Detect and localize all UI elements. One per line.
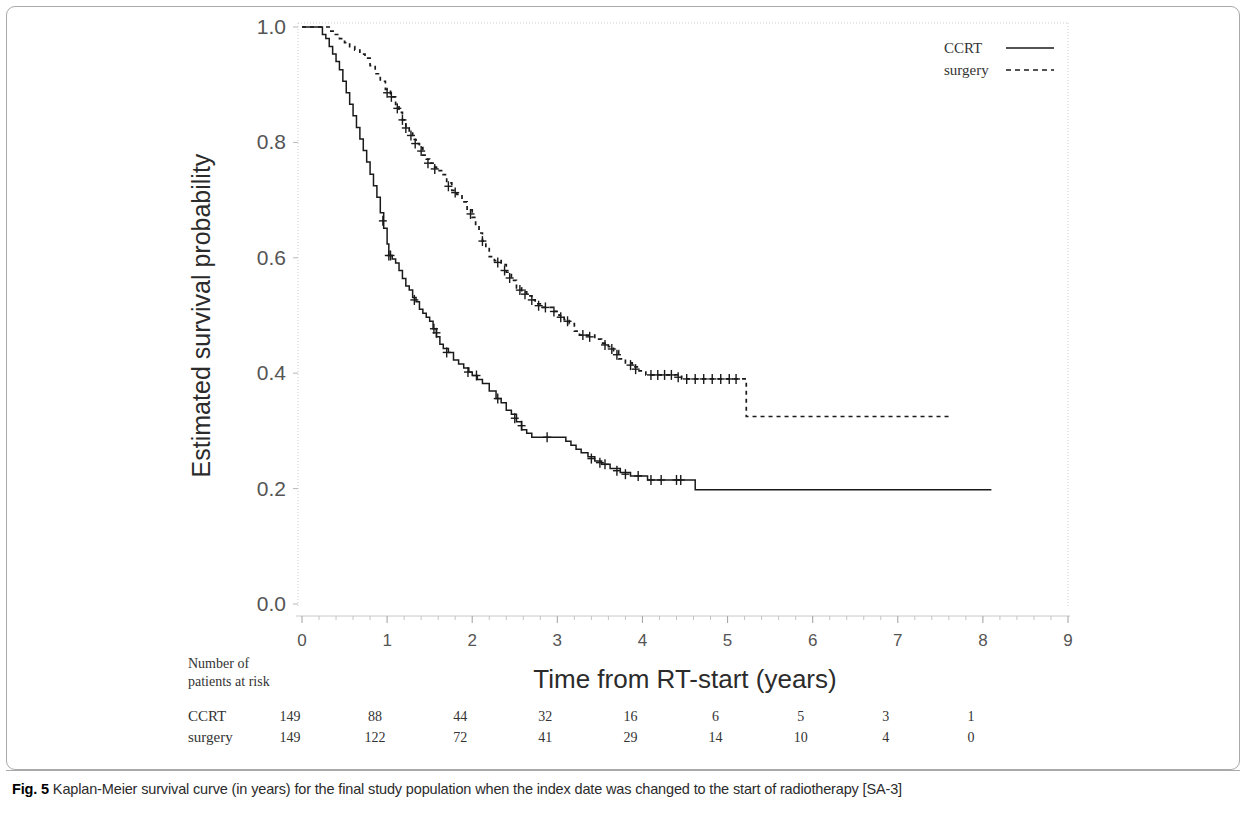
- risk-cell: 29: [623, 730, 637, 745]
- risk-cell: 16: [623, 709, 637, 724]
- y-tick-label: 0.2: [257, 477, 286, 500]
- risk-cell: 88: [368, 709, 382, 724]
- risk-cell: 10: [794, 730, 808, 745]
- x-tick-label: 0: [297, 631, 306, 650]
- figure-root: 0.00.20.40.60.81.0Estimated survival pro…: [0, 0, 1248, 813]
- risk-cell: 6: [712, 709, 719, 724]
- y-tick-label: 1.0: [257, 15, 286, 38]
- risk-cell: 41: [538, 730, 552, 745]
- x-tick-label: 5: [723, 631, 732, 650]
- caption-divider: [6, 770, 1240, 771]
- risk-cell: 149: [280, 709, 301, 724]
- risk-cell: 149: [280, 730, 301, 745]
- figure-caption: Fig. 5 Kaplan-Meier survival curve (in y…: [12, 781, 1242, 797]
- x-axis-title: Time from RT-start (years): [533, 664, 836, 694]
- risk-cell: 1: [967, 709, 974, 724]
- x-tick-label: 1: [382, 631, 391, 650]
- y-axis-title: Estimated survival probability: [187, 153, 215, 477]
- risk-table-heading-line2: patients at risk: [188, 674, 270, 689]
- risk-cell: 3: [882, 709, 889, 724]
- risk-cell: 14: [709, 730, 723, 745]
- risk-row-label-surgery: surgery: [188, 729, 233, 745]
- y-tick-label: 0.6: [257, 246, 286, 269]
- y-tick-label: 0.4: [257, 361, 287, 384]
- censor-marks-surgery: [383, 88, 740, 384]
- x-tick-label: 6: [808, 631, 817, 650]
- survival-curve-surgery: [302, 27, 951, 416]
- risk-cell: 72: [453, 730, 467, 745]
- y-tick-label: 0.0: [257, 592, 286, 615]
- x-tick-label: 4: [638, 631, 647, 650]
- y-tick-label: 0.8: [257, 130, 286, 153]
- x-tick-label: 7: [893, 631, 902, 650]
- figure-caption-text: Kaplan-Meier survival curve (in years) f…: [53, 781, 902, 797]
- x-tick-label: 9: [1063, 631, 1072, 650]
- censor-marks-ccrt: [379, 216, 685, 485]
- risk-cell: 5: [797, 709, 804, 724]
- x-tick-label: 2: [467, 631, 476, 650]
- risk-row-label-ccrt: CCRT: [188, 708, 226, 724]
- legend-label-ccrt: CCRT: [944, 40, 982, 56]
- x-tick-label: 3: [553, 631, 562, 650]
- risk-cell: 122: [365, 730, 386, 745]
- risk-cell: 32: [538, 709, 552, 724]
- survival-curve-ccrt: [302, 27, 991, 490]
- kaplan-meier-plot: 0.00.20.40.60.81.0Estimated survival pro…: [0, 0, 1248, 770]
- risk-cell: 4: [882, 730, 889, 745]
- risk-table-heading-line1: Number of: [188, 656, 249, 671]
- legend-label-surgery: surgery: [944, 62, 989, 78]
- figure-caption-label: Fig. 5: [12, 781, 49, 797]
- risk-cell: 0: [967, 730, 974, 745]
- risk-cell: 44: [453, 709, 467, 724]
- x-tick-label: 8: [978, 631, 987, 650]
